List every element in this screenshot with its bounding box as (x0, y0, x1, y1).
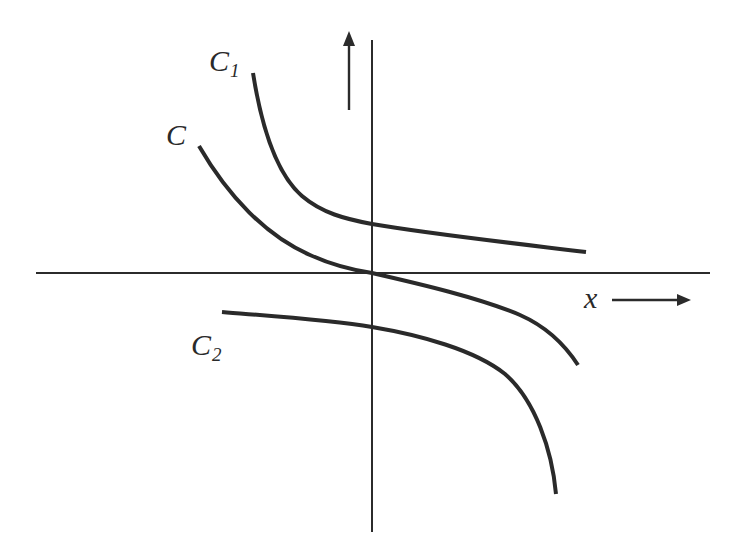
label-c1-main: C (209, 44, 229, 77)
diagram-canvas: C1 C C2 x (0, 0, 735, 556)
x-axis-label: x (584, 283, 597, 313)
y-direction-arrow-icon (343, 31, 355, 110)
curve-c (199, 146, 578, 365)
diagram-svg (0, 0, 735, 556)
label-c2: C2 (191, 330, 222, 364)
label-c-main: C (166, 118, 186, 151)
curve-c1 (253, 73, 586, 252)
label-c1: C1 (209, 46, 240, 80)
label-c: C (166, 120, 186, 150)
x-direction-arrow-icon (612, 294, 691, 306)
label-c2-sub: 2 (212, 344, 222, 365)
label-c1-sub: 1 (230, 60, 240, 81)
curve-c2 (222, 312, 556, 494)
label-c2-main: C (191, 328, 211, 361)
